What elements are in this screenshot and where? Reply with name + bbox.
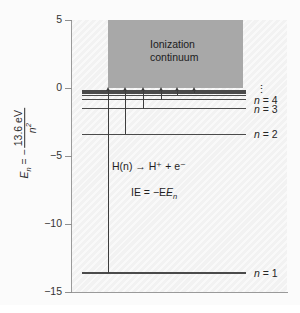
y-axis-tick-mark — [65, 224, 72, 225]
energy-level-line — [82, 95, 246, 96]
ionization-energy-annotation: IE = −EEn — [131, 186, 177, 201]
y-axis-title-equals: = − — [18, 149, 30, 167]
y-axis-tick-mark — [65, 88, 72, 89]
energy-level-line — [82, 134, 246, 135]
energy-level-diagram: 50−5−10−15 En = −13.6 eVn2 Ionization co… — [0, 0, 300, 313]
series-limit-dots: ⋮ — [256, 86, 267, 92]
y-axis-title-denominator: n2 — [25, 108, 38, 148]
ionization-arrow-shaft — [125, 91, 126, 134]
y-axis-tick-mark — [65, 156, 72, 157]
ionization-arrow-shaft — [161, 91, 162, 100]
y-axis-tick-label: −15 — [44, 285, 62, 297]
continuum-label-line1: Ionization — [150, 38, 195, 50]
ionization-arrow-head — [123, 87, 127, 91]
ionization-arrow-shaft — [108, 91, 109, 273]
energy-level-line — [82, 99, 246, 100]
x-axis-line — [71, 292, 288, 293]
ionization-arrow-head — [192, 87, 196, 91]
energy-level-label-n4: n = 4 — [254, 94, 278, 106]
ionization-arrow-shaft — [143, 91, 144, 109]
energy-level-label-n2: n = 2 — [254, 128, 278, 140]
ionization-arrow-shaft — [177, 91, 178, 95]
y-axis-title-fraction: 13.6 eVn2 — [12, 108, 38, 148]
y-axis-title-subscript: n — [24, 167, 33, 171]
y-axis-tick-label: 0 — [56, 81, 62, 93]
y-axis-title: En = −13.6 eVn2 — [12, 73, 38, 213]
energy-level-line — [82, 272, 246, 273]
continuum-label-line2: continuum — [150, 51, 198, 63]
y-axis-tick-label: 5 — [56, 13, 62, 25]
energy-level-line — [82, 108, 246, 109]
ionization-continuum-label: Ionization continuum — [150, 38, 198, 64]
y-axis-title-numerator: 13.6 eV — [12, 108, 25, 148]
y-axis-tick-label: −10 — [44, 217, 62, 229]
ionization-arrow-head — [141, 87, 145, 91]
energy-level-label-n1: n = 1 — [254, 267, 278, 279]
ionization-arrow-head — [159, 87, 163, 91]
ionization-arrow-head — [175, 87, 179, 91]
ionization-arrow-head — [106, 87, 110, 91]
y-axis-title-symbol: E — [18, 172, 30, 179]
reaction-annotation: H(n) → H⁺ + e⁻ — [112, 160, 186, 172]
ionization-arrow-shaft — [194, 91, 195, 93]
y-axis-tick-mark — [65, 292, 72, 293]
y-axis-tick-label: −5 — [50, 149, 62, 161]
y-axis-tick-mark — [65, 20, 72, 21]
energy-level-line — [82, 92, 246, 93]
